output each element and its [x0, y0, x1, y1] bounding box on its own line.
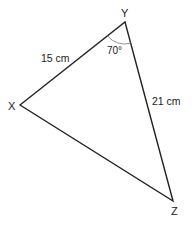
triangle-xyz: [20, 22, 173, 201]
angle-label-y: 70°: [107, 45, 122, 56]
angle-arc-y: [108, 36, 131, 44]
side-label-yz: 21 cm: [152, 95, 181, 107]
vertex-label-y: Y: [121, 7, 129, 19]
triangle-diagram: Y X Z 15 cm 21 cm 70°: [0, 0, 194, 225]
vertex-label-x: X: [8, 100, 16, 112]
side-label-xy: 15 cm: [41, 52, 70, 64]
vertex-label-z: Z: [171, 205, 178, 217]
